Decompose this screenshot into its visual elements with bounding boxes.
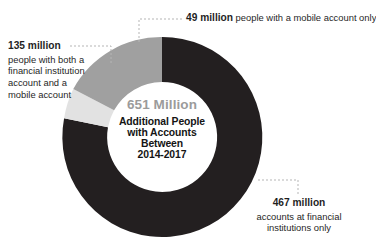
callout-fi-only-amount: 467 million [240,197,358,210]
callout-both-description: people with both a financial institution… [8,54,86,101]
callout-fi-only: 467 million accounts at financial instit… [240,197,358,234]
callout-mobile-only: 49 million people with a mobile account … [186,12,358,25]
callout-both-amount: 135 million [8,40,86,53]
callout-fi-only-description: accounts at financial institutions only [240,211,358,234]
leader-line-fi-only [258,180,298,194]
callout-both: 135 million people with both a financial… [8,40,86,100]
callout-mobile-only-description: people with a mobile account only [233,12,376,23]
callout-mobile-only-amount: 49 million [186,12,233,23]
